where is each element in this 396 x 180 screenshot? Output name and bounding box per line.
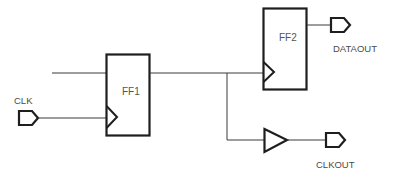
clock-branch-wire: [227, 73, 264, 140]
clk-port: CLK: [14, 95, 38, 125]
ff2-label: FF2: [279, 32, 297, 43]
dataout-label: DATAOUT: [333, 43, 377, 54]
schematic-canvas: CLK FF1 FF2 DATAOUT CLKOUT: [0, 0, 396, 180]
input-port-icon: [19, 111, 38, 125]
output-port-icon: [331, 18, 350, 32]
ff1-label: FF1: [122, 86, 140, 97]
clkout-label: CLKOUT: [316, 159, 355, 170]
ff1-block: FF1: [107, 55, 150, 136]
output-port-icon: [326, 133, 345, 147]
ff2-block: FF2: [264, 9, 307, 90]
clk-label: CLK: [14, 95, 33, 106]
buffer-triangle-icon: [265, 129, 288, 152]
clkout-port: CLKOUT: [316, 133, 355, 170]
dataout-port: DATAOUT: [331, 18, 377, 54]
ff2-box: [264, 9, 307, 90]
